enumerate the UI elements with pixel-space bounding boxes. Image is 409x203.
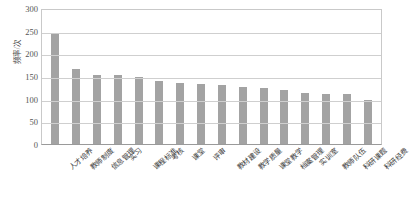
bar[interactable] <box>72 69 80 144</box>
bar[interactable] <box>176 83 184 144</box>
bar[interactable] <box>260 88 268 144</box>
bar[interactable] <box>218 85 226 144</box>
bar[interactable] <box>197 84 205 144</box>
y-tick-label: 50 <box>30 118 39 127</box>
x-tick-label: 教师队伍 <box>341 147 367 172</box>
y-tick-label: 100 <box>25 95 38 104</box>
gridline <box>42 101 381 102</box>
y-tick-label: 0 <box>34 141 38 150</box>
bar[interactable] <box>135 77 143 144</box>
bar[interactable] <box>155 81 163 144</box>
plot-area <box>41 9 382 145</box>
x-tick-label: 评审 <box>212 147 228 162</box>
y-axis-tick-labels: 300250200150100500 <box>12 9 38 145</box>
bar[interactable] <box>280 90 288 144</box>
gridline <box>42 123 381 124</box>
y-tick-label: 200 <box>25 50 38 59</box>
y-tick-label: 150 <box>25 73 38 82</box>
x-tick-label: 课堂 <box>191 147 207 162</box>
x-axis-tick-labels: 人才培养教师制度信息管理实习课程标准考核课堂评审教材建设教学质量课堂教学档案管理… <box>41 147 382 203</box>
gridline <box>42 33 381 34</box>
gridline <box>42 78 381 79</box>
bar[interactable] <box>51 33 59 144</box>
bar[interactable] <box>364 100 372 144</box>
bar[interactable] <box>114 75 122 144</box>
y-tick-label: 300 <box>25 5 38 14</box>
gridline <box>42 55 381 56</box>
bar[interactable] <box>93 75 101 144</box>
bar[interactable] <box>239 87 247 144</box>
y-tick-label: 250 <box>25 27 38 36</box>
